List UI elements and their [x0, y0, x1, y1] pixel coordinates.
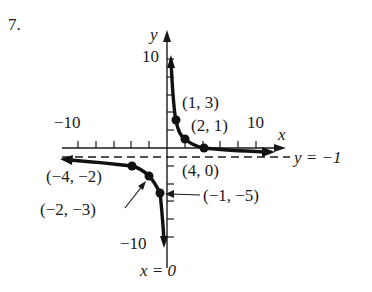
y-axis-arrow-icon [163, 30, 171, 42]
point-neg1-neg5 [156, 189, 165, 198]
x-tick-label-10: 10 [247, 113, 264, 132]
pointer-arrow-icon [138, 181, 146, 190]
x-axis-arrow-icon [274, 144, 286, 152]
pointer-line-neg2-neg3 [125, 185, 143, 208]
point-1-3 [172, 116, 181, 125]
point-label-neg4-neg2: (−4, −2) [46, 167, 102, 186]
point-4-0 [200, 144, 209, 153]
y-axis-label: y [148, 25, 158, 44]
point-label-1-3: (1, 3) [182, 93, 219, 112]
pointer-line-neg1-neg5 [170, 194, 200, 195]
point-neg4-neg2 [128, 162, 137, 171]
problem-number: 7. [8, 15, 21, 34]
point-label-neg1-neg5: (−1, −5) [203, 186, 259, 205]
curve-arrow-up-icon [167, 55, 175, 68]
point-neg2-neg3 [145, 172, 154, 181]
point-label-neg2-neg3: (−2, −3) [40, 200, 96, 219]
y-tick-label-neg10: −10 [120, 234, 147, 253]
graph-figure: 7. [0, 0, 372, 292]
x-axis-label: x [277, 125, 286, 144]
vertical-asymptote-label: x = 0 [139, 261, 177, 280]
point-label-4-0: (4, 0) [182, 161, 219, 180]
x-tick-label-neg10: −10 [54, 113, 81, 132]
point-2-1 [181, 135, 190, 144]
point-label-2-1: (2, 1) [191, 116, 228, 135]
horizontal-asymptote-label: y = −1 [292, 148, 342, 167]
y-tick-label-10: 10 [142, 47, 159, 66]
